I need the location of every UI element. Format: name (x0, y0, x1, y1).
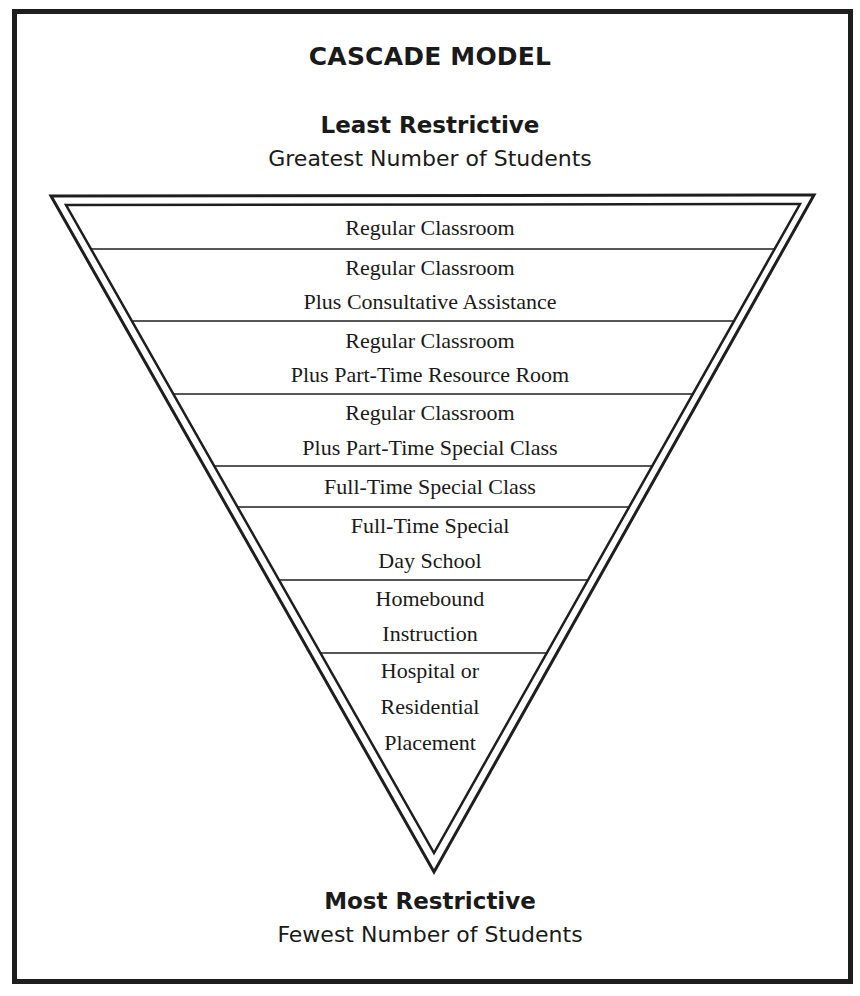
bottom-heading: Most Restrictive (0, 888, 860, 914)
tier-5-line-1: Full-Time Special Class (0, 476, 860, 498)
tier-2-line-2: Plus Consultative Assistance (0, 291, 860, 313)
tier-3-line-1: Regular Classroom (0, 330, 860, 352)
tier-4-line-2: Plus Part-Time Special Class (0, 437, 860, 459)
tier-8-line-2: Residential (0, 696, 860, 718)
bottom-subheading: Fewest Number of Students (0, 922, 860, 947)
tier-4-line-1: Regular Classroom (0, 402, 860, 424)
tier-7-line-1: Homebound (0, 588, 860, 610)
tier-8-line-1: Hospital or (0, 660, 860, 682)
tier-6-line-2: Day School (0, 550, 860, 572)
tier-2-line-1: Regular Classroom (0, 257, 860, 279)
tier-3-line-2: Plus Part-Time Resource Room (0, 364, 860, 386)
tier-6-line-1: Full-Time Special (0, 515, 860, 537)
tier-1-line-1: Regular Classroom (0, 217, 860, 239)
tier-7-line-2: Instruction (0, 623, 860, 645)
tier-8-line-3: Placement (0, 732, 860, 754)
